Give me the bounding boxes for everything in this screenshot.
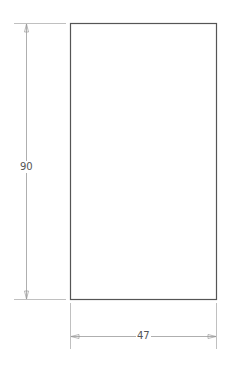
technical-drawing <box>0 0 232 368</box>
height-dimension-label: 90 <box>19 161 34 173</box>
rectangle-outline <box>71 24 217 300</box>
width-dimension-label: 47 <box>136 330 151 342</box>
